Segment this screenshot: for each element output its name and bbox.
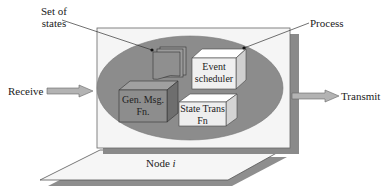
state-trans-fn-label-line1: State Trans — [179, 103, 226, 115]
set-of-states-label-line1: Set of — [36, 5, 72, 17]
node-label-text: Node — [146, 157, 173, 169]
transmit-arrow — [292, 90, 339, 102]
node-label: Node i — [146, 157, 176, 169]
node-label-index: i — [173, 157, 176, 169]
transmit-label: Transmit — [341, 90, 380, 102]
set-of-states-icon — [153, 47, 186, 79]
receive-arrow — [47, 85, 93, 97]
process-label: Process — [310, 17, 344, 29]
gen-msg-fn-label-line2: Fn. — [119, 106, 167, 118]
gen-msg-fn-label-line1: Gen. Msg. — [119, 94, 167, 106]
gen-msg-fn-label: Gen. Msg. Fn. — [119, 94, 167, 118]
state-trans-fn-label-line2: Fn — [179, 115, 226, 127]
set-of-states-label-line2: states — [36, 17, 72, 29]
event-scheduler-label: Event scheduler — [192, 61, 236, 85]
process-pointer-dot — [242, 46, 245, 49]
event-scheduler-label-line1: Event — [192, 61, 236, 73]
state-trans-fn-label: State Trans Fn — [179, 103, 226, 127]
set-of-states-label: Set of states — [36, 5, 72, 29]
event-scheduler-label-line2: scheduler — [192, 73, 236, 85]
receive-label: Receive — [8, 85, 43, 97]
set-of-states-pointer-dot — [150, 48, 153, 51]
